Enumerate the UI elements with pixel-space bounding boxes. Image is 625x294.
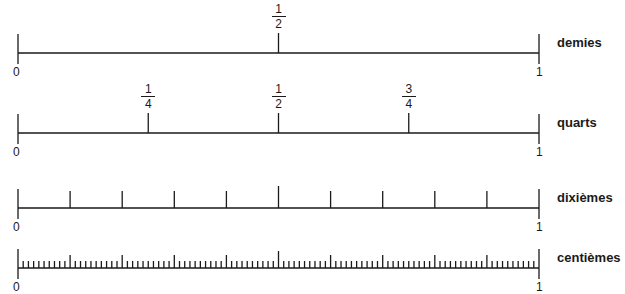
end-value-label: 1 [536,65,543,79]
start-value-label: 0 [13,65,20,79]
fraction-denominator: 2 [272,97,286,110]
fraction-numerator: 3 [402,83,416,97]
start-value-label: 0 [13,220,20,234]
fraction-numerator: 1 [272,3,286,17]
number-lines-diagram [0,0,625,294]
end-value-label: 1 [536,145,543,159]
line-name-quarts: quarts [557,115,597,130]
end-value-label: 1 [536,280,543,294]
fraction-denominator: 2 [272,17,286,30]
line-name-dixiemes: dixièmes [557,190,613,205]
fraction-label: 12 [272,83,286,110]
fraction-label: 12 [272,3,286,30]
fraction-label: 34 [402,83,416,110]
end-value-label: 1 [536,220,543,234]
line-name-centiemes: centièmes [557,250,621,265]
fraction-label: 14 [141,83,155,110]
fraction-denominator: 4 [141,97,155,110]
start-value-label: 0 [13,280,20,294]
fraction-numerator: 1 [272,83,286,97]
fraction-numerator: 1 [141,83,155,97]
fraction-denominator: 4 [402,97,416,110]
start-value-label: 0 [13,145,20,159]
line-name-demies: demies [557,35,602,50]
